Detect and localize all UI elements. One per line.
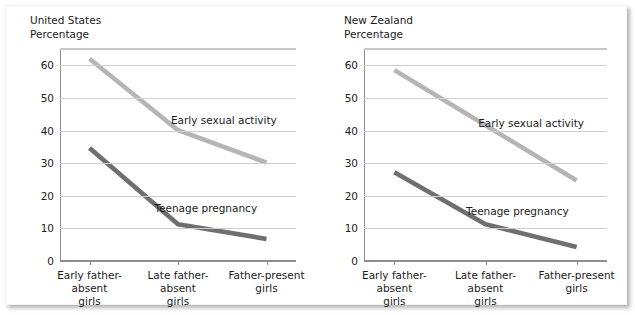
gridline <box>364 49 607 50</box>
gridline <box>60 49 296 50</box>
x-axis-tick-mark <box>577 261 578 265</box>
x-axis-tick-mark <box>486 261 487 265</box>
gridline <box>364 131 607 132</box>
series-line <box>90 148 267 239</box>
x-axis-tick-label: Late father-absent girls <box>130 269 226 308</box>
y-axis-tick-label: 10 <box>41 222 54 234</box>
x-axis-tick-mark <box>90 261 91 265</box>
x-axis-tick-label: Early father-absent girls <box>346 269 442 308</box>
series-annotation-label: Teenage pregnancy <box>154 202 257 214</box>
panel-title-united-states: United States Percentage <box>30 13 101 41</box>
gridline <box>60 131 296 132</box>
panel-title-new-zealand: New Zealand Percentage <box>344 13 413 41</box>
gridline <box>364 196 607 197</box>
y-axis-tick-label: 20 <box>41 190 54 202</box>
gridline <box>364 228 607 229</box>
gridline <box>60 196 296 197</box>
y-axis-tick-label: 30 <box>41 157 54 169</box>
x-axis-tick-label: Father-present girls <box>219 269 315 295</box>
gridline <box>364 163 607 164</box>
gridline <box>364 98 607 99</box>
x-axis-tick-label: Father-present girls <box>529 269 625 295</box>
series-line <box>90 59 267 163</box>
x-axis-tick-label: Late father-absent girls <box>438 269 534 308</box>
x-axis-tick-mark <box>267 261 268 265</box>
panel-title-line1: New Zealand <box>344 14 413 26</box>
panel-united-states: United States Percentage 0102030405060Ea… <box>8 0 319 315</box>
x-axis-tick-label: Early father-absent girls <box>42 269 138 308</box>
gridline <box>60 98 296 99</box>
y-axis-tick-label: 40 <box>41 125 54 137</box>
series-annotation-label: Early sexual activity <box>171 114 277 126</box>
figure-root: United States Percentage 0102030405060Ea… <box>0 0 635 315</box>
gridline <box>60 65 296 66</box>
y-axis-tick-label: 60 <box>345 59 358 71</box>
panel-title-line2: Percentage <box>344 27 413 41</box>
x-axis-tick-mark <box>178 261 179 265</box>
y-axis-tick-label: 0 <box>47 255 54 267</box>
y-axis-tick-label: 40 <box>345 125 358 137</box>
y-axis-tick-label: 0 <box>351 255 358 267</box>
plot-area-united-states: 0102030405060Early father-absent girlsLa… <box>60 48 296 261</box>
panel-new-zealand: New Zealand Percentage 0102030405060Earl… <box>322 0 633 315</box>
gridline <box>60 228 296 229</box>
y-axis-tick-label: 60 <box>41 59 54 71</box>
series-annotation-label: Early sexual activity <box>478 117 584 129</box>
x-axis-tick-mark <box>394 261 395 265</box>
panel-title-line2: Percentage <box>30 27 101 41</box>
gridline <box>364 65 607 66</box>
y-axis-tick-label: 50 <box>41 92 54 104</box>
y-axis-tick-label: 20 <box>345 190 358 202</box>
panel-title-line1: United States <box>30 14 101 26</box>
gridline <box>60 163 296 164</box>
y-axis-tick-label: 10 <box>345 222 358 234</box>
series-annotation-label: Teenage pregnancy <box>466 205 569 217</box>
plot-area-new-zealand: 0102030405060Early father-absent girlsLa… <box>364 48 607 261</box>
y-axis-tick-label: 30 <box>345 157 358 169</box>
y-axis-tick-label: 50 <box>345 92 358 104</box>
